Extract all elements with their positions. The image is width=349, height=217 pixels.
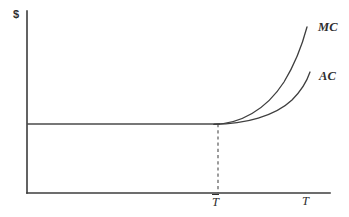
threshold-tick-label: T	[212, 194, 219, 209]
y-axis-label: $	[13, 9, 19, 20]
marginal-cost-label: MC	[318, 21, 338, 34]
chart-canvas	[0, 0, 349, 217]
cost-curve-figure: $ MC AC T T	[0, 0, 349, 217]
marginal-cost-curve	[214, 27, 307, 124]
threshold-tick-text: T	[212, 194, 219, 209]
average-cost-label: AC	[319, 70, 336, 83]
x-axis-label: T	[302, 195, 309, 208]
average-cost-curve	[214, 72, 310, 124]
